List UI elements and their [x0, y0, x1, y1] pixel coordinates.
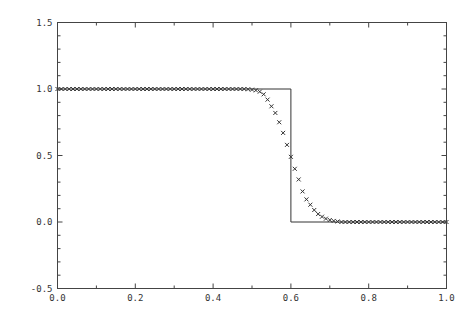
data-point-marker	[266, 98, 270, 102]
data-point-marker	[262, 92, 266, 96]
data-point-marker	[269, 104, 273, 108]
x-tick-label: 0.2	[127, 293, 143, 303]
data-point-marker	[281, 131, 285, 135]
data-point-marker	[297, 177, 301, 181]
y-tick-label: 1.0	[36, 84, 52, 94]
data-point-marker	[308, 203, 312, 207]
series-numerical	[56, 87, 449, 224]
data-point-marker	[304, 197, 308, 201]
data-point-marker	[316, 212, 320, 216]
y-tick-label: 0.0	[36, 217, 52, 227]
series-exact-step	[58, 89, 447, 222]
data-point-marker	[312, 208, 316, 212]
data-point-marker	[258, 90, 262, 94]
axis-ticks	[58, 23, 447, 289]
data-point-marker	[320, 215, 324, 219]
x-tick-label: 1.0	[438, 293, 454, 303]
x-tick-label: 0.8	[361, 293, 377, 303]
data-point-marker	[285, 143, 289, 147]
data-point-marker	[273, 111, 277, 115]
exact-step-line	[58, 89, 447, 222]
y-tick-label: -0.5	[31, 284, 53, 294]
plot-frame	[58, 23, 447, 289]
data-point-marker	[336, 219, 340, 223]
chart: 0.0 0.2 0.4 0.6 0.8 1.0 -0.5 0.0 0.5 1.0…	[0, 0, 475, 309]
y-tick-labels: -0.5 0.0 0.5 1.0 1.5	[31, 18, 53, 294]
x-tick-label: 0.6	[283, 293, 299, 303]
x-tick-label: 0.4	[205, 293, 221, 303]
data-point-marker	[324, 217, 328, 221]
y-tick-label: 1.5	[36, 18, 52, 28]
x-tick-label: 0.0	[49, 293, 65, 303]
data-point-marker	[301, 189, 305, 193]
data-point-marker	[293, 167, 297, 171]
x-tick-labels: 0.0 0.2 0.4 0.6 0.8 1.0	[49, 293, 454, 303]
data-point-marker	[328, 218, 332, 222]
y-tick-label: 0.5	[36, 151, 52, 161]
data-point-marker	[277, 120, 281, 124]
data-point-marker	[250, 88, 254, 92]
